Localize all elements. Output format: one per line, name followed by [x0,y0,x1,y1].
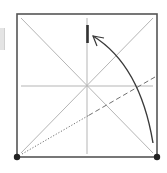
fold-arrow-icon [93,36,153,143]
fold-line [22,77,155,154]
bottom-left-dot [14,154,20,160]
origami-diagram [0,0,167,173]
fold-line-dotted [22,116,89,155]
bottom-right-dot [154,154,160,160]
